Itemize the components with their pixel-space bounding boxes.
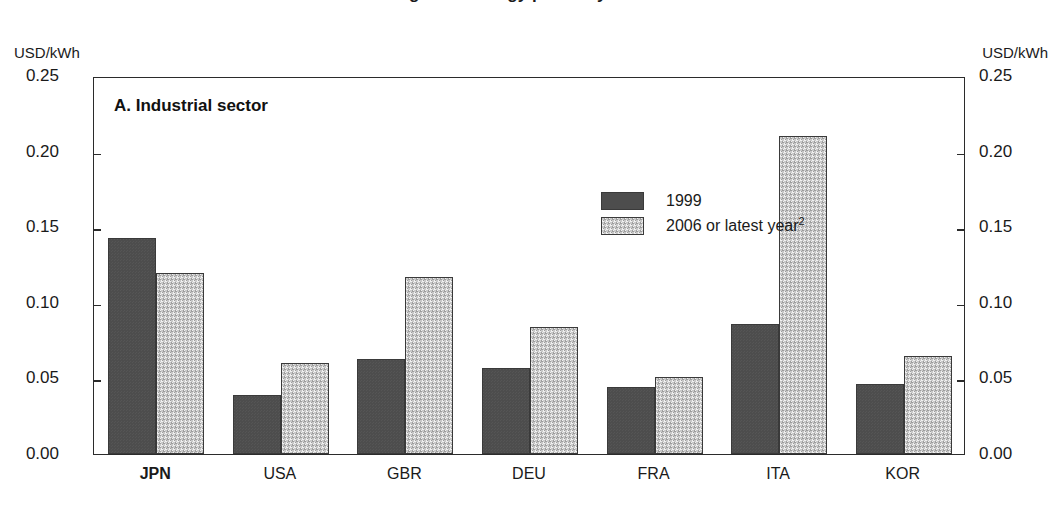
legend-label: 2006 or latest year2 [666, 215, 805, 235]
x-tick-label-usa: USA [220, 465, 340, 483]
plot-area: A. Industrial sector 19992006 or latest … [93, 77, 965, 455]
y-tick-label-right: 0.00 [979, 445, 1012, 462]
y-tick-mark [957, 229, 964, 231]
chart-legend: 19992006 or latest year2 [601, 188, 805, 238]
y-tick-label-left: 0.25 [26, 67, 59, 84]
bar-fra-2006-or-latest-year [655, 377, 703, 454]
x-tick-label-ita: ITA [718, 465, 838, 483]
legend-item-1999: 1999 [601, 188, 805, 213]
figure-panel: Figure 6. Energy prices by sector¹ USD/k… [0, 0, 1062, 509]
x-tick-label-kor: KOR [843, 465, 963, 483]
legend-label: 1999 [666, 192, 702, 210]
x-tick-label-deu: DEU [469, 465, 589, 483]
bar-ita-1999 [731, 324, 779, 454]
y-tick-label-left: 0.10 [26, 294, 59, 311]
bar-fra-1999 [607, 387, 655, 454]
bar-usa-1999 [233, 395, 281, 454]
bar-deu-1999 [482, 368, 530, 454]
y-tick-label-right: 0.20 [979, 143, 1012, 160]
y-tick-mark [94, 305, 101, 307]
legend-swatch [601, 192, 644, 210]
y-tick-mark [94, 154, 101, 156]
y-tick-label-left: 0.15 [26, 218, 59, 235]
y-tick-label-right: 0.25 [979, 67, 1012, 84]
y-tick-label-right: 0.15 [979, 218, 1012, 235]
y-tick-label-right: 0.05 [979, 369, 1012, 386]
y-tick-label-left: 0.20 [26, 143, 59, 160]
bar-deu-2006-or-latest-year [530, 327, 578, 454]
bar-usa-2006-or-latest-year [281, 363, 329, 454]
y-axis-unit-label-left: USD/kWh [14, 44, 80, 61]
y-axis-unit-label-right: USD/kWh [982, 44, 1048, 61]
y-tick-mark [94, 380, 101, 382]
x-tick-label-jpn: JPN [95, 465, 215, 483]
bar-jpn-2006-or-latest-year [156, 273, 204, 454]
y-tick-label-left: 0.00 [26, 445, 59, 462]
y-tick-mark [957, 305, 964, 307]
bar-gbr-1999 [357, 359, 405, 454]
figure-title-clipped: Figure 6. Energy prices by sector¹ [0, 0, 1062, 4]
panel-title: A. Industrial sector [114, 96, 268, 116]
bar-kor-2006-or-latest-year [904, 356, 952, 454]
bar-ita-2006-or-latest-year [779, 136, 827, 454]
y-tick-label-right: 0.10 [979, 294, 1012, 311]
bar-kor-1999 [856, 384, 904, 454]
y-tick-mark [94, 229, 101, 231]
legend-footnote-marker: 2 [799, 215, 805, 227]
legend-swatch [601, 217, 644, 235]
y-tick-label-left: 0.05 [26, 369, 59, 386]
y-tick-mark [957, 380, 964, 382]
x-tick-label-gbr: GBR [344, 465, 464, 483]
legend-item-2006-or-latest-year: 2006 or latest year2 [601, 213, 805, 238]
x-tick-label-fra: FRA [594, 465, 714, 483]
bar-gbr-2006-or-latest-year [405, 277, 453, 454]
bar-jpn-1999 [108, 238, 156, 454]
y-tick-mark [957, 154, 964, 156]
